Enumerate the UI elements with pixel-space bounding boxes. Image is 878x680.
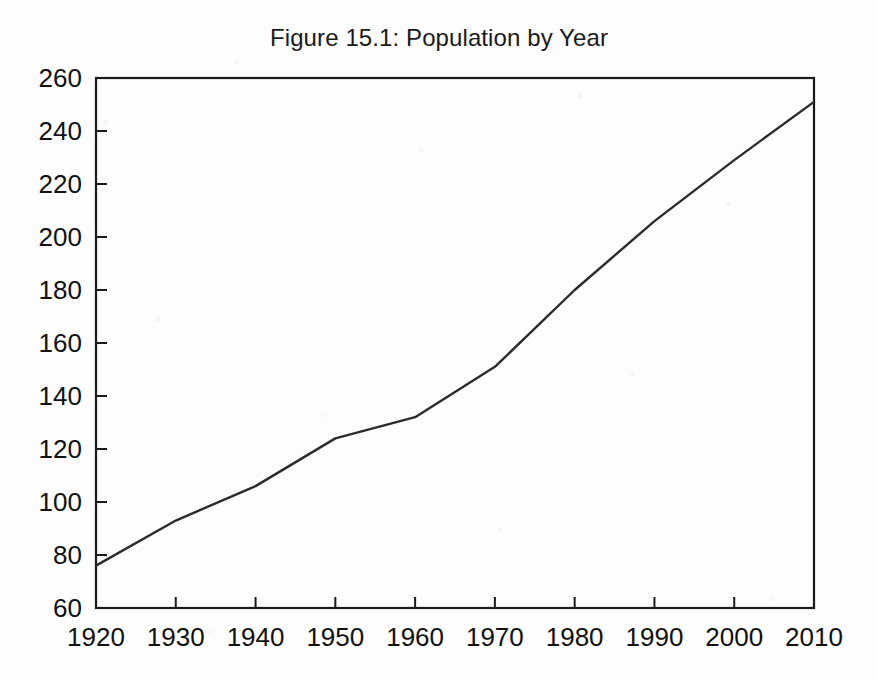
x-axis-tick-label: 1980 — [546, 622, 604, 652]
x-axis-tick-label: 2000 — [705, 622, 763, 652]
y-axis-tick-label: 80 — [53, 540, 82, 570]
x-axis-tick-label: 1970 — [466, 622, 524, 652]
x-axis-tick-label: 1990 — [626, 622, 684, 652]
y-axis-tick-label: 180 — [39, 275, 82, 305]
y-axis-tick-label: 160 — [39, 328, 82, 358]
x-axis-tick-label: 1960 — [386, 622, 444, 652]
y-axis-tick-label: 60 — [53, 593, 82, 623]
x-axis-tick-label: 1920 — [67, 622, 125, 652]
y-axis-tick-label: 140 — [39, 381, 82, 411]
y-axis-tick-label: 100 — [39, 487, 82, 517]
y-axis-tick-label: 260 — [39, 63, 82, 93]
data-series-line — [96, 102, 814, 566]
plot-frame — [96, 78, 814, 608]
y-axis-tick-label: 200 — [39, 222, 82, 252]
y-axis-tick-label: 120 — [39, 434, 82, 464]
x-axis-tick-label: 1950 — [306, 622, 364, 652]
figure-container: Figure 15.1: Population by Year 60801001… — [0, 0, 878, 680]
x-axis-tick-label: 2010 — [785, 622, 843, 652]
line-chart-plot: 6080100120140160180200220240260192019301… — [0, 0, 878, 680]
x-axis-tick-label: 1940 — [227, 622, 285, 652]
y-axis-tick-label: 240 — [39, 116, 82, 146]
x-axis-tick-label: 1930 — [147, 622, 205, 652]
y-axis-tick-label: 220 — [39, 169, 82, 199]
